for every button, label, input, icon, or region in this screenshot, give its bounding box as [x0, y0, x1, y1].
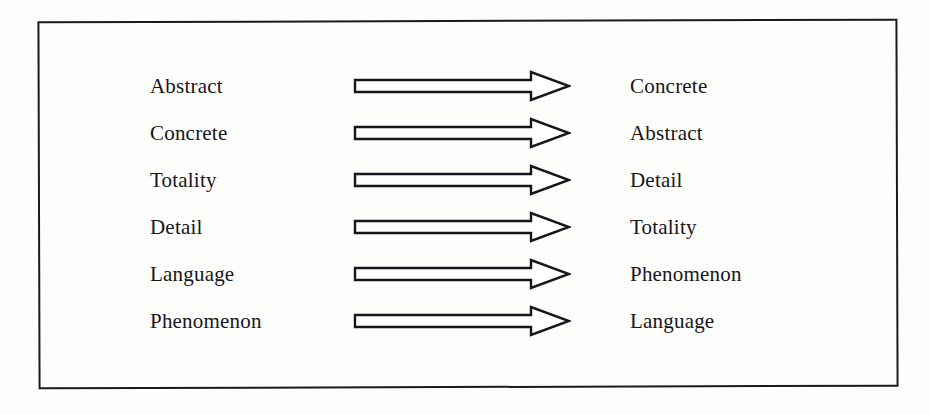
- pair-right-label: Detail: [630, 160, 880, 200]
- right-arrow-outline-icon: [353, 211, 571, 243]
- pair-left-label: Detail: [150, 207, 345, 247]
- right-arrow-outline-icon: [353, 258, 571, 290]
- pair-left-label: Abstract: [150, 66, 345, 106]
- pair-left-label: Totality: [150, 160, 345, 200]
- pair-left-label: Phenomenon: [150, 301, 345, 341]
- pair-left-label: Concrete: [150, 113, 345, 153]
- pair-row: Detail Totality: [0, 207, 929, 247]
- pair-right-label: Concrete: [630, 66, 880, 106]
- pair-right-label: Phenomenon: [630, 254, 880, 294]
- pair-right-label: Abstract: [630, 113, 880, 153]
- pair-right-label: Language: [630, 301, 880, 341]
- right-arrow-outline-icon: [353, 305, 571, 337]
- pair-left-label: Language: [150, 254, 345, 294]
- pair-row: Language Phenomenon: [0, 254, 929, 294]
- right-arrow-outline-icon: [353, 164, 571, 196]
- diagram-rows-container: Abstract Concrete Concrete Abstract Tota…: [0, 0, 929, 415]
- pair-right-label: Totality: [630, 207, 880, 247]
- right-arrow-outline-icon: [353, 70, 571, 102]
- pair-row: Totality Detail: [0, 160, 929, 200]
- right-arrow-outline-icon: [353, 117, 571, 149]
- pair-row: Abstract Concrete: [0, 66, 929, 106]
- pair-row: Phenomenon Language: [0, 301, 929, 341]
- pair-row: Concrete Abstract: [0, 113, 929, 153]
